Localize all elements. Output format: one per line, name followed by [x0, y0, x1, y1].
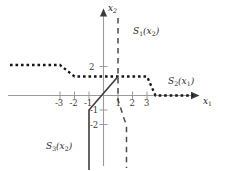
y-axis-label: x2: [108, 4, 117, 14]
y-axis: [100, 9, 107, 167]
curve-label-s1: S1(x2): [133, 27, 159, 37]
x-axis-label: x1: [203, 97, 212, 107]
x-tick-label-1: 1: [116, 99, 121, 108]
x-tick-label--3: -3: [55, 99, 63, 108]
x-tick-label-3: 3: [144, 99, 149, 108]
x-tick-label--2: -2: [70, 99, 78, 108]
curve-label-s3: S3(x2): [46, 142, 72, 152]
x-tick-label-2: 2: [130, 99, 135, 108]
curve-label-s2-arg-open: (x: [178, 76, 187, 86]
x-axis-label-subscript: 1: [208, 100, 212, 107]
curve-label-s2: S2(x1): [168, 77, 194, 87]
curve-s2: [10, 65, 193, 96]
y-tick-label--1: -1: [90, 106, 98, 115]
curve-label-s2-arg-close: ): [191, 76, 195, 86]
curve-label-s1-arg-open: (x: [143, 26, 152, 36]
saturation-function-figure: -3 -2 -1 1 2 3 2 -1 -2 x2 x1 S1(x2) S2(x…: [0, 0, 226, 171]
curve-s1: [118, 18, 127, 168]
curve-label-s3-arg-open: (x: [56, 141, 65, 151]
curve-label-s1-arg-close: ): [156, 26, 160, 36]
y-tick-label--2: -2: [90, 121, 98, 130]
y-axis-label-subscript: 2: [113, 7, 117, 14]
curve-label-s3-arg-close: ): [69, 141, 73, 151]
y-tick-label-2: 2: [89, 63, 94, 72]
